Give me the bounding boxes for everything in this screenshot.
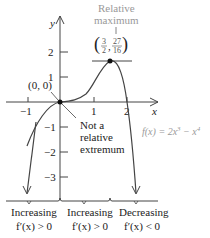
tick-y-neg1: −1: [44, 121, 56, 133]
interval-2-condition: f′(x) > 0: [72, 220, 109, 233]
interval-bracket: [6, 198, 158, 201]
rel-max-line2: maximum: [94, 14, 139, 26]
interval-2-label: Increasing: [67, 206, 113, 218]
interval-3-label: Decreasing: [119, 206, 169, 218]
tick-y-neg3: −3: [44, 171, 56, 183]
origin-label: (0, 0): [28, 79, 52, 92]
rel-max-line1: Relative: [98, 2, 135, 14]
y-axis-label: y: [49, 17, 55, 29]
interval-3-condition: f′(x) < 0: [124, 220, 161, 233]
x-axis-label: x: [151, 105, 157, 117]
function-graph: −1 1 2 x y 2 1 −1 −2 −3 (0, 0) Not a rel…: [0, 0, 210, 238]
tick-y-2: 2: [48, 46, 54, 58]
function-label: f(x) = 2x3 − x4: [142, 125, 201, 138]
max-y-num: 27: [113, 37, 121, 46]
tick-y-neg2: −2: [44, 146, 56, 158]
interval-1-condition: f′(x) > 0: [16, 220, 53, 233]
max-point: [108, 59, 113, 64]
origin-point: [58, 100, 63, 105]
comma: ,: [108, 40, 111, 52]
paren-open: (: [94, 34, 100, 55]
max-y-den: 16: [113, 46, 121, 55]
tick-x-1: 1: [91, 105, 97, 117]
max-x-num: 3: [102, 37, 106, 46]
max-x-den: 2: [102, 46, 106, 55]
not-extremum-line1: Not a: [80, 119, 104, 131]
interval-1-label: Increasing: [11, 206, 57, 218]
tick-x-neg1: −1: [20, 105, 32, 117]
not-extremum-line2: relative: [80, 131, 113, 143]
paren-close: ): [122, 34, 128, 55]
not-extremum-line3: extremum: [80, 143, 125, 155]
